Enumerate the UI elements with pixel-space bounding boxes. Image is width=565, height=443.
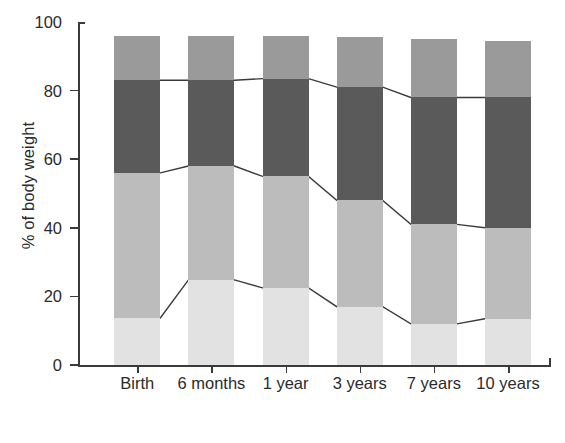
bar-segment-4 bbox=[263, 36, 309, 79]
bar-segment-2 bbox=[411, 224, 457, 323]
bar-segment-4 bbox=[485, 41, 531, 98]
x-tick-label-1-year: 1 year bbox=[263, 374, 309, 393]
x-tick-mark-3 bbox=[360, 366, 362, 373]
bar-segment-1 bbox=[337, 307, 383, 365]
y-tick-label-80: 80 bbox=[22, 81, 62, 100]
x-tick-label-7-years: 7 years bbox=[407, 374, 461, 393]
bar-segment-2 bbox=[114, 173, 160, 318]
bar-segment-3 bbox=[485, 97, 531, 227]
y-tick-label-20: 20 bbox=[22, 287, 62, 306]
plot-area bbox=[78, 22, 551, 365]
bar-segment-4 bbox=[188, 36, 234, 81]
bar-segment-3 bbox=[114, 80, 160, 173]
bar-segment-2 bbox=[485, 228, 531, 319]
bar-segment-3 bbox=[263, 79, 309, 177]
x-tick-label-6-months: 6 months bbox=[178, 374, 246, 393]
x-tick-label-birth: Birth bbox=[120, 374, 154, 393]
y-tick-mark-20 bbox=[70, 296, 78, 298]
x-axis-tick-labels: Birth6 months1 year3 years7 years10 year… bbox=[78, 374, 551, 414]
x-tick-mark-1 bbox=[211, 366, 213, 373]
y-tick-mark-60 bbox=[70, 158, 78, 160]
y-tick-label-60: 60 bbox=[22, 150, 62, 169]
y-tick-mark-0 bbox=[70, 364, 78, 366]
x-tick-mark-4 bbox=[434, 366, 436, 373]
y-tick-label-0: 0 bbox=[22, 356, 62, 375]
bar-segment-2 bbox=[337, 200, 383, 306]
x-tick-mark-5 bbox=[508, 366, 510, 373]
bar-segment-4 bbox=[337, 37, 383, 87]
bar-segment-3 bbox=[188, 80, 234, 166]
bar-6-months bbox=[188, 36, 234, 365]
bar-segment-4 bbox=[411, 39, 457, 97]
bar-segment-3 bbox=[337, 87, 383, 200]
bar-segment-1 bbox=[114, 318, 160, 365]
y-axis-tick-labels: 020406080100 bbox=[22, 0, 62, 443]
bar-7-years bbox=[411, 39, 457, 365]
bar-segment-3 bbox=[411, 97, 457, 224]
bar-segment-1 bbox=[411, 324, 457, 365]
bar-birth bbox=[114, 36, 160, 365]
x-axis-line bbox=[78, 365, 551, 367]
x-tick-label-3-years: 3 years bbox=[333, 374, 387, 393]
x-tick-mark-2 bbox=[286, 366, 288, 373]
bar-segment-1 bbox=[188, 280, 234, 365]
bar-segment-1 bbox=[263, 288, 309, 365]
y-tick-mark-80 bbox=[70, 90, 78, 92]
bar-segment-1 bbox=[485, 319, 531, 365]
y-tick-label-40: 40 bbox=[22, 218, 62, 237]
connector-boundary-1 bbox=[114, 280, 531, 324]
stacked-bar-chart: % of body weight 020406080100 Birth6 mon… bbox=[0, 0, 565, 443]
x-tick-label-10-years: 10 years bbox=[476, 374, 539, 393]
connector-boundary-2 bbox=[114, 166, 531, 228]
bar-segment-2 bbox=[263, 176, 309, 287]
connector-boundary-3 bbox=[114, 79, 531, 98]
bar-3-years bbox=[337, 37, 383, 365]
bar-segment-2 bbox=[188, 166, 234, 280]
x-tick-mark-0 bbox=[137, 366, 139, 373]
y-tick-label-100: 100 bbox=[22, 13, 62, 32]
bar-segment-4 bbox=[114, 36, 160, 81]
bar-1-year bbox=[263, 36, 309, 365]
y-tick-mark-40 bbox=[70, 227, 78, 229]
bar-10-years bbox=[485, 41, 531, 365]
